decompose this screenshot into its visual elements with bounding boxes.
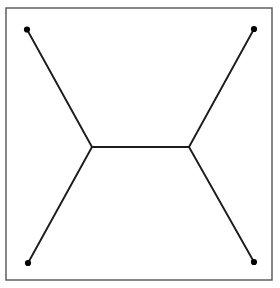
bottom-left-terminal	[25, 260, 31, 266]
top-left-terminal	[24, 26, 30, 32]
steiner-tree-diagram	[0, 0, 280, 288]
top-right-terminal	[251, 26, 257, 32]
diagram-border	[6, 8, 272, 280]
figure-container	[0, 0, 280, 288]
bottom-right-terminal	[251, 259, 257, 265]
